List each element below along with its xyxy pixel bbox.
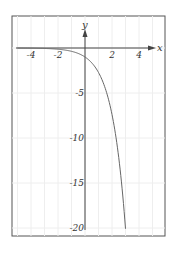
y-tick-label: -10 [70, 133, 85, 143]
y-axis-label: y [81, 19, 88, 30]
chart: -4-224-5-10-15-20 x y [0, 0, 173, 253]
x-tick-label: -4 [27, 50, 36, 60]
y-tick-label: -15 [70, 178, 85, 188]
x-axis-label: x [157, 42, 163, 53]
x-tick-label: -2 [54, 50, 63, 60]
x-tick-label: 4 [135, 50, 142, 60]
x-tick-label: 2 [108, 50, 115, 60]
chart-frame [12, 16, 165, 236]
y-tick-label: -20 [70, 223, 85, 233]
y-tick-label: -5 [75, 88, 84, 98]
